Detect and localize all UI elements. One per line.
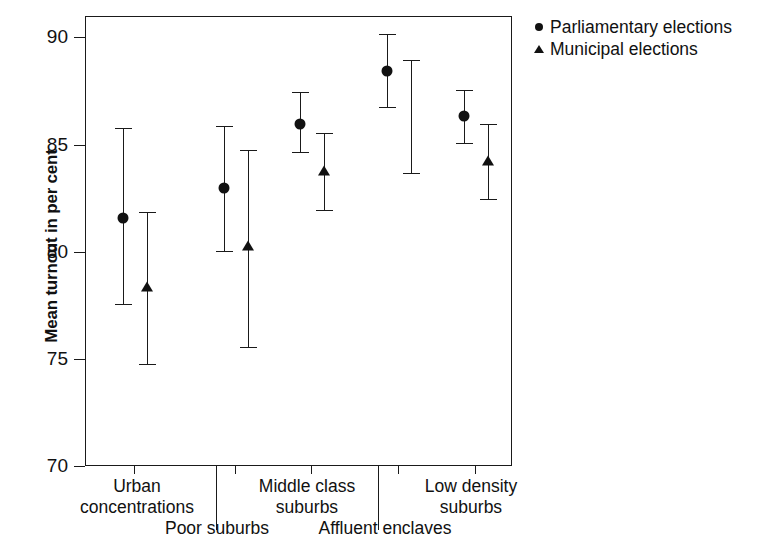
error-bar-cap-upper bbox=[480, 124, 497, 125]
error-bar-cap-lower bbox=[115, 304, 132, 305]
x-minor-tick bbox=[311, 466, 312, 474]
plot-area bbox=[85, 16, 512, 466]
error-bar-cap-lower bbox=[403, 173, 420, 174]
error-bar-cap-lower bbox=[456, 143, 473, 144]
error-bar-cap-upper bbox=[216, 126, 233, 127]
error-bar-cap-lower bbox=[379, 107, 396, 108]
y-tick-label: 75 bbox=[8, 348, 68, 370]
error-bar-cap-lower bbox=[292, 152, 309, 153]
error-bar-cap-upper bbox=[316, 133, 333, 134]
circle-marker-icon bbox=[295, 119, 306, 130]
x-category-label: Affluent enclaves bbox=[300, 518, 470, 539]
x-category-label: Urban concentrations bbox=[62, 476, 212, 518]
legend-label: Municipal elections bbox=[548, 39, 698, 60]
y-tick bbox=[74, 252, 85, 253]
error-bar-cap-upper bbox=[403, 60, 420, 61]
circle-marker-icon bbox=[219, 183, 230, 194]
circle-marker-icon bbox=[530, 23, 548, 31]
error-bar-cap-lower bbox=[139, 364, 156, 365]
x-minor-tick bbox=[475, 466, 476, 474]
y-tick-label: 85 bbox=[8, 134, 68, 156]
chart-legend: Parliamentary elections Municipal electi… bbox=[530, 16, 770, 60]
y-tick-label: 70 bbox=[8, 455, 68, 477]
error-bar-cap-upper bbox=[456, 90, 473, 91]
triangle-marker-icon bbox=[141, 282, 153, 292]
chart-figure: Mean turnout in per cent 7075808590 Urba… bbox=[0, 0, 771, 543]
legend-label: Parliamentary elections bbox=[548, 17, 732, 38]
x-category-label: Poor suburbs bbox=[142, 518, 292, 539]
legend-item-parliamentary: Parliamentary elections bbox=[530, 16, 770, 38]
x-minor-tick bbox=[398, 466, 399, 474]
triangle-marker-icon bbox=[530, 45, 548, 53]
y-tick-label: 80 bbox=[8, 241, 68, 263]
circle-marker-icon bbox=[382, 65, 393, 76]
legend-item-municipal: Municipal elections bbox=[530, 38, 770, 60]
x-minor-tick bbox=[235, 466, 236, 474]
error-bar-cap-upper bbox=[115, 128, 132, 129]
x-minor-tick bbox=[134, 466, 135, 474]
error-bar-cap-lower bbox=[316, 210, 333, 211]
error-bar-cap-upper bbox=[292, 92, 309, 93]
circle-marker-icon bbox=[459, 110, 470, 121]
error-bar-cap-upper bbox=[240, 150, 257, 151]
y-tick bbox=[74, 359, 85, 360]
error-bar-cap-upper bbox=[139, 212, 156, 213]
error-bar-cap-lower bbox=[480, 199, 497, 200]
circle-marker-icon bbox=[118, 213, 129, 224]
triangle-marker-icon bbox=[318, 166, 330, 176]
error-bar-line bbox=[411, 60, 412, 174]
y-tick bbox=[74, 145, 85, 146]
triangle-marker-icon bbox=[242, 241, 254, 251]
triangle-marker-icon bbox=[482, 155, 494, 165]
error-bar-cap-lower bbox=[216, 251, 233, 252]
error-bar-cap-lower bbox=[240, 347, 257, 348]
x-category-label: Low density suburbs bbox=[396, 476, 546, 518]
y-tick bbox=[74, 466, 85, 467]
x-category-label: Middle class suburbs bbox=[232, 476, 382, 518]
y-tick-label: 90 bbox=[8, 26, 68, 48]
error-bar-cap-upper bbox=[379, 34, 396, 35]
y-tick bbox=[74, 37, 85, 38]
